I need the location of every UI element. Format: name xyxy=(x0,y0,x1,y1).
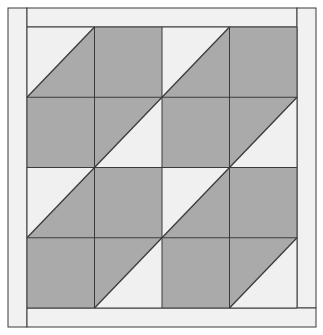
quilt-cell-r3-c2 xyxy=(162,238,230,308)
border-strip-right xyxy=(297,8,316,308)
quilt-diagram xyxy=(0,0,323,335)
border-strip-left xyxy=(8,8,27,327)
dark-square xyxy=(27,238,95,308)
quilt-cell-r0-c3 xyxy=(230,27,298,97)
dark-square xyxy=(162,97,230,167)
dark-square xyxy=(230,27,298,97)
quilt-cell-r2-c2 xyxy=(162,168,230,238)
quilt-cell-r1-c2 xyxy=(162,97,230,167)
quilt-cell-r0-c0 xyxy=(27,27,95,97)
quilt-cell-r2-c3 xyxy=(230,168,298,238)
border-strip-top xyxy=(27,8,297,27)
quilt-cell-r0-c2 xyxy=(162,27,230,97)
quilt-cell-r1-c3 xyxy=(230,97,298,167)
dark-square xyxy=(162,238,230,308)
quilt-cell-r1-c0 xyxy=(27,97,95,167)
quilt-cell-r0-c1 xyxy=(95,27,163,97)
border-strip-bottom xyxy=(27,308,316,327)
quilt-cell-r2-c1 xyxy=(95,168,163,238)
quilt-cell-r3-c0 xyxy=(27,238,95,308)
dark-square xyxy=(95,168,163,238)
quilt-cell-r3-c3 xyxy=(230,238,298,308)
quilt-cell-r3-c1 xyxy=(95,238,163,308)
dark-square xyxy=(230,168,298,238)
dark-square xyxy=(95,27,163,97)
quilt-cell-r2-c0 xyxy=(27,168,95,238)
quilt-cell-r1-c1 xyxy=(95,97,163,167)
dark-square xyxy=(27,97,95,167)
